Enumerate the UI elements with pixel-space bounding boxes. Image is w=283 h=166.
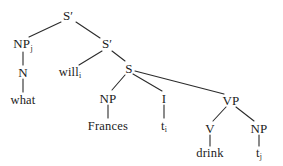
leaf-trace-j: tj (256, 147, 262, 160)
node-label: NP (13, 36, 30, 51)
node-label: S (125, 61, 132, 76)
node-label: NP (99, 91, 116, 106)
leaf-label: will (59, 65, 79, 79)
leaf-label: Frances (88, 119, 128, 133)
node-label: VP (222, 93, 239, 108)
node-label: V (205, 121, 215, 136)
tree-edge-root-to-inner-sbar (76, 22, 100, 38)
tree-edge-vp-to-np-obj (236, 107, 254, 121)
node-subscript: j (30, 44, 32, 53)
leaf-subscript: i (165, 125, 167, 134)
syntax-tree-figure: S′ NPj N what S′ willi S NP Frances I ti… (0, 0, 283, 166)
node-np-wh: NPj (13, 37, 32, 50)
node-v: V (205, 122, 215, 135)
node-label: N (18, 65, 28, 80)
node-infl: I (162, 92, 167, 105)
tree-edge-inner-sbar-to-s (112, 51, 125, 61)
node-np-object: NP (250, 122, 267, 135)
node-s: S (125, 62, 132, 75)
node-label: NP (250, 121, 267, 136)
leaf-trace-i: ti (161, 120, 167, 133)
leaf-label: what (10, 93, 35, 107)
leaf-what: what (10, 94, 35, 107)
node-np-subject: NP (99, 92, 116, 105)
node-vp: VP (222, 94, 239, 107)
tree-edge-root-to-np-wh (29, 22, 61, 37)
node-label: I (162, 91, 167, 106)
tree-edges-layer (0, 0, 283, 166)
node-root-sbar: S′ (63, 9, 73, 22)
node-inner-sbar: S′ (102, 37, 112, 50)
prime-mark: ′ (70, 9, 73, 23)
leaf-frances: Frances (88, 120, 128, 133)
leaf-drink: drink (196, 147, 223, 160)
node-n-wh: N (18, 66, 28, 79)
leaf-label: drink (196, 146, 223, 160)
prime-mark: ′ (109, 37, 112, 51)
leaf-subscript: i (79, 71, 81, 80)
leaf-will: willi (59, 66, 82, 79)
tree-edge-s-to-np-subj (112, 75, 125, 90)
tree-edge-inner-sbar-to-will (79, 51, 102, 65)
tree-edge-vp-to-v (213, 107, 226, 121)
leaf-subscript: j (260, 152, 262, 161)
